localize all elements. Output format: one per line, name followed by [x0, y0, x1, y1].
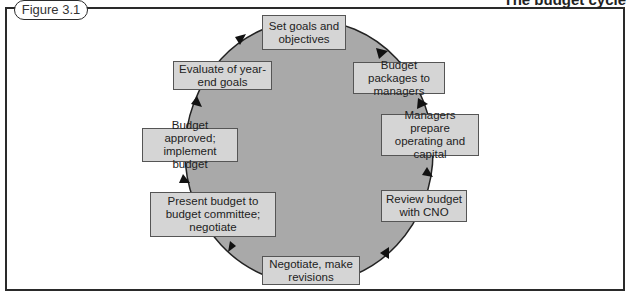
step-budget-approved: Budget approved; implement budget — [142, 128, 238, 162]
step-managers-prepare: Managers prepare operating and capital — [381, 114, 479, 156]
step-evaluate-goals: Evaluate of year-end goals — [173, 61, 272, 90]
step-set-goals: Set goals and objectives — [262, 15, 346, 50]
step-present-budget: Present budget to budget committee; nego… — [150, 192, 276, 237]
step-review-budget: Review budget with CNO — [381, 190, 467, 222]
step-negotiate-revisions: Negotiate, make revisions — [262, 256, 360, 285]
step-budget-packages: Budget packages to managers — [353, 62, 445, 94]
